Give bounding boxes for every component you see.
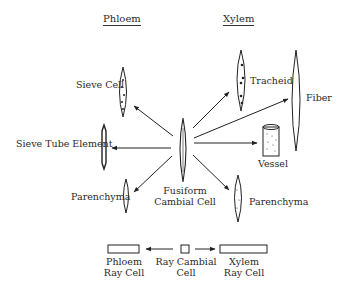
phloem-header: Phloem: [103, 13, 141, 26]
xylem-ray-label-line1: Xylem: [219, 256, 269, 267]
fusiform-label-line1: Fusiform: [153, 185, 217, 196]
fusiform-cambial-cell-label: Fusiform Cambial Cell: [153, 185, 217, 207]
ray-cambial-label-line2: Cell: [155, 267, 217, 278]
phloem-ray-cell-shape: [108, 245, 139, 253]
xylem-ray-cell-label: Xylem Ray Cell: [219, 256, 269, 278]
xylem-parenchyma-label: Parenchyma: [249, 196, 308, 207]
fusiform-label-line2: Cambial Cell: [153, 196, 217, 207]
arrow-to-sieve-cell: [134, 106, 173, 136]
vessel-label: Vessel: [258, 158, 288, 169]
fiber-label: Fiber: [306, 92, 332, 103]
ray-cambial-cell-shape: [181, 245, 189, 253]
phloem-ray-label-line2: Ray Cell: [103, 267, 145, 278]
vessel-shape: [263, 125, 279, 157]
sieve-tube-element-label: Sieve Tube Element: [16, 138, 113, 149]
xylem-header: Xylem: [223, 13, 254, 26]
xylem-parenchyma-shape: [235, 175, 242, 222]
ray-cambial-cell-label: Ray Cambial Cell: [155, 256, 217, 278]
fiber-shape: [292, 50, 300, 151]
tracheid-label: Tracheid: [250, 75, 293, 86]
xylem-ray-cell-shape: [220, 245, 267, 253]
arrow-to-tracheid: [193, 92, 229, 128]
xylem-ray-label-line2: Ray Cell: [219, 267, 269, 278]
phloem-ray-label-line1: Phloem: [103, 256, 145, 267]
ray-cambial-label-line1: Ray Cambial: [155, 256, 217, 267]
phloem-parenchyma-label: Parenchyma: [71, 191, 130, 202]
sieve-cell-label: Sieve Cell: [76, 79, 124, 90]
arrow-to-fiber: [194, 99, 288, 138]
tracheid-shape: [237, 50, 245, 111]
phloem-ray-cell-label: Phloem Ray Cell: [103, 256, 145, 278]
